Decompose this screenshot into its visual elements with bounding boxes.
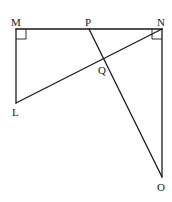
segment-ln bbox=[16, 29, 162, 103]
label-o: O bbox=[157, 181, 165, 193]
label-l: L bbox=[12, 106, 19, 118]
label-n: N bbox=[157, 16, 165, 28]
right-angle-marker-m bbox=[16, 29, 26, 39]
segment-po bbox=[89, 29, 162, 177]
label-p: P bbox=[85, 16, 91, 28]
label-q: Q bbox=[98, 64, 106, 76]
label-m: M bbox=[11, 16, 21, 28]
geometry-diagram: M P N Q L O bbox=[0, 0, 172, 202]
